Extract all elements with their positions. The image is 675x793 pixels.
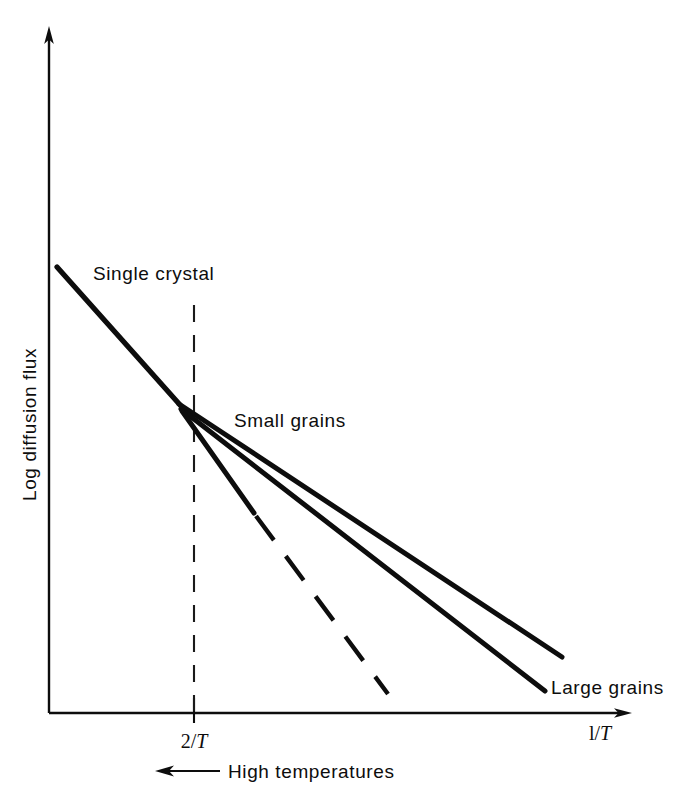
xtick-label-2t: 2/T bbox=[181, 730, 210, 752]
high-temperatures-label: High temperatures bbox=[228, 761, 395, 782]
series-label-small-grains: Small grains bbox=[234, 410, 346, 431]
xtick-label-2t-variable: T bbox=[196, 730, 209, 752]
series-label-single-crystal: Single crystal bbox=[93, 263, 214, 284]
series-line-extrapolation-dashed bbox=[256, 516, 388, 694]
y-axis-label: Log diffusion flux bbox=[19, 348, 40, 501]
series-line-small-grains bbox=[179, 404, 562, 657]
axes-group bbox=[44, 26, 632, 718]
xtick-label-2t-numerator: 2 bbox=[181, 730, 191, 752]
series-line-large-grains bbox=[181, 409, 545, 691]
series-label-large-grains: Large grains bbox=[551, 677, 664, 698]
high-temperatures-direction-group bbox=[155, 766, 220, 777]
series-line-single-crystal bbox=[57, 267, 181, 406]
chart-canvas: Single crystal Small grains Large grains… bbox=[0, 0, 675, 793]
diffusion-flux-schematic-chart: Single crystal Small grains Large grains… bbox=[0, 0, 675, 793]
x-axis-label-variable: T bbox=[600, 722, 613, 744]
data-lines-group bbox=[57, 267, 562, 694]
x-axis-label: l/T bbox=[589, 722, 613, 744]
